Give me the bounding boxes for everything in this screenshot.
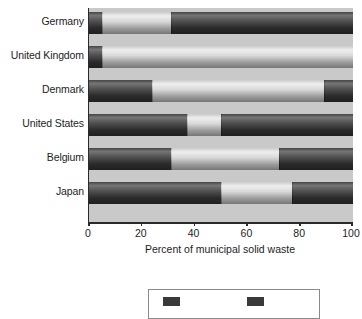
bar-track bbox=[89, 80, 353, 102]
x-axis-tick-80 bbox=[299, 222, 301, 226]
bar-segment-1 bbox=[89, 80, 152, 102]
x-axis-tick-label-80: 80 bbox=[293, 227, 305, 239]
x-axis-tick-60 bbox=[246, 222, 248, 226]
y-axis-label-denmark: Denmark bbox=[2, 84, 84, 95]
x-axis-tick-40 bbox=[194, 222, 196, 226]
bar-row-united-states bbox=[89, 114, 353, 136]
x-axis-line bbox=[88, 222, 353, 224]
x-axis-tick-0 bbox=[88, 222, 90, 226]
y-axis-label-united-states: United States bbox=[2, 118, 84, 129]
y-axis-label-belgium: Belgium bbox=[2, 152, 84, 163]
bar-track bbox=[89, 12, 353, 34]
bar-segment-1 bbox=[89, 46, 102, 68]
y-axis-label-united-kingdom: United Kingdom bbox=[2, 50, 84, 61]
bar-segment-1 bbox=[89, 114, 187, 136]
x-axis-tick-label-0: 0 bbox=[85, 227, 91, 239]
legend-entry-2 bbox=[247, 297, 269, 306]
bar-segment-2 bbox=[187, 114, 221, 136]
bar-row-germany bbox=[89, 12, 353, 34]
bar-segment-3 bbox=[221, 114, 353, 136]
bar-track bbox=[89, 114, 353, 136]
legend bbox=[148, 289, 320, 319]
y-axis-label-group: Germany United Kingdom Denmark United St… bbox=[0, 0, 84, 222]
bar-segment-2 bbox=[221, 182, 292, 204]
x-axis-tick-20 bbox=[141, 222, 143, 226]
x-axis-tick-label-20: 20 bbox=[135, 227, 147, 239]
x-axis-tick-100 bbox=[351, 222, 353, 226]
bar-segment-3 bbox=[292, 182, 353, 204]
plot-area bbox=[88, 8, 353, 222]
bar-track bbox=[89, 46, 353, 68]
legend-swatch-icon bbox=[247, 297, 264, 306]
bar-segment-2 bbox=[102, 46, 353, 68]
bar-row-japan bbox=[89, 182, 353, 204]
bar-row-united-kingdom bbox=[89, 46, 353, 68]
bar-segment-3 bbox=[279, 148, 353, 170]
bar-segment-2 bbox=[152, 80, 324, 102]
y-axis-label-germany: Germany bbox=[2, 16, 84, 27]
x-axis-tick-label-60: 60 bbox=[241, 227, 253, 239]
bar-segment-3 bbox=[171, 12, 353, 34]
bar-segment-1 bbox=[89, 12, 102, 34]
bar-segment-3 bbox=[324, 80, 353, 102]
bar-segment-2 bbox=[171, 148, 279, 170]
x-axis-tick-label-100: 100 bbox=[342, 227, 360, 239]
bar-track bbox=[89, 148, 353, 170]
bar-row-denmark bbox=[89, 80, 353, 102]
x-axis-tick-label-40: 40 bbox=[188, 227, 200, 239]
x-axis-title: Percent of municipal solid waste bbox=[88, 243, 352, 255]
bar-row-belgium bbox=[89, 148, 353, 170]
legend-swatch-icon bbox=[163, 297, 180, 306]
bar-track bbox=[89, 182, 353, 204]
bar-segment-1 bbox=[89, 182, 221, 204]
bar-segment-2 bbox=[102, 12, 171, 34]
bar-segment-1 bbox=[89, 148, 171, 170]
legend-entry-1 bbox=[163, 297, 185, 306]
y-axis-label-japan: Japan bbox=[2, 186, 84, 197]
